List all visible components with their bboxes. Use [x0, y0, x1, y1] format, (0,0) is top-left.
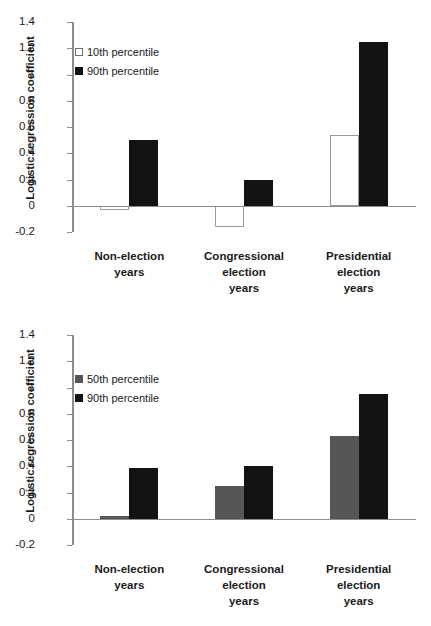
- y-axis-tick: [67, 101, 72, 102]
- y-axis-tick: [67, 388, 72, 389]
- y-axis-tick-label: 0.2: [0, 487, 35, 499]
- legend-label: 50th percentile: [87, 373, 159, 385]
- category-label: Non-election years: [72, 561, 187, 609]
- zero-baseline: [72, 206, 416, 207]
- legend-top: 10th percentile 90th percentile: [75, 42, 159, 80]
- legend-item: 10th percentile: [75, 42, 159, 61]
- y-axis-tick-label: 0.8: [0, 408, 35, 420]
- y-axis-tick-label: 1: [0, 69, 35, 81]
- y-axis-tick-label: 1.2: [0, 356, 35, 368]
- chart-panel-top: Logistic regression coefficient 1.41.210…: [0, 0, 431, 313]
- y-axis-tick: [67, 75, 72, 76]
- legend-swatch-icon: [75, 67, 83, 75]
- zero-baseline: [72, 519, 416, 520]
- bar: [330, 135, 359, 206]
- y-axis-tick: [67, 180, 72, 181]
- legend-swatch-icon: [75, 375, 83, 383]
- legend-bottom: 50th percentile 90th percentile: [75, 369, 159, 407]
- y-axis-tick: [67, 493, 72, 494]
- y-axis-tick: [67, 440, 72, 441]
- y-axis-tick-label: 0.6: [0, 434, 35, 446]
- y-axis-tick: [67, 127, 72, 128]
- y-axis-line: [72, 335, 74, 545]
- y-axis-tick-label: 1.2: [0, 43, 35, 55]
- y-axis-tick: [67, 232, 72, 233]
- y-axis-tick-label: 0.6: [0, 121, 35, 133]
- y-axis-line: [72, 22, 74, 232]
- legend-item: 90th percentile: [75, 61, 159, 80]
- y-axis-tick-label: -0.2: [0, 539, 35, 551]
- bar: [215, 206, 244, 228]
- y-axis-tick: [67, 335, 72, 336]
- bar: [129, 468, 158, 519]
- legend-swatch-icon: [75, 394, 83, 402]
- y-axis-tick-label: 0: [0, 513, 35, 525]
- category-label: Presidential election years: [301, 561, 416, 609]
- legend-label: 90th percentile: [87, 392, 159, 404]
- bar: [244, 466, 273, 519]
- bar: [215, 486, 244, 519]
- plot-area-bottom: 1.41.210.80.60.40.20-0.2: [72, 335, 416, 545]
- y-axis-tick: [67, 48, 72, 49]
- bar: [359, 394, 388, 519]
- y-axis-tick-label: 1.4: [0, 16, 35, 28]
- category-label: Congressional election years: [187, 561, 302, 609]
- y-axis-tick: [67, 545, 72, 546]
- chart-panel-bottom: Logistic regression coefficient 1.41.210…: [0, 313, 431, 626]
- bar: [244, 180, 273, 206]
- bar: [129, 140, 158, 206]
- legend-item: 50th percentile: [75, 369, 159, 388]
- y-axis-tick: [67, 361, 72, 362]
- category-label: Non-election years: [72, 248, 187, 296]
- y-axis-tick: [67, 466, 72, 467]
- y-axis-tick: [67, 153, 72, 154]
- bar: [359, 42, 388, 206]
- category-label: Presidential election years: [301, 248, 416, 296]
- category-label: Congressional election years: [187, 248, 302, 296]
- x-axis-category-labels-top: Non-election years Congressional electio…: [72, 248, 416, 296]
- y-axis-tick-label: 0.4: [0, 148, 35, 160]
- bar: [330, 436, 359, 519]
- legend-label: 90th percentile: [87, 65, 159, 77]
- y-axis-tick-label: 0: [0, 200, 35, 212]
- y-axis-tick: [67, 22, 72, 23]
- y-axis-tick-label: 0.4: [0, 461, 35, 473]
- x-axis-category-labels-bottom: Non-election years Congressional electio…: [72, 561, 416, 609]
- y-axis-tick-label: 0.8: [0, 95, 35, 107]
- y-axis-tick-label: 1.4: [0, 329, 35, 341]
- y-axis-tick: [67, 414, 72, 415]
- legend-label: 10th percentile: [87, 46, 159, 58]
- legend-swatch-icon: [75, 48, 83, 56]
- y-axis-tick-label: 1: [0, 382, 35, 394]
- legend-item: 90th percentile: [75, 388, 159, 407]
- y-axis-tick-label: -0.2: [0, 226, 35, 238]
- y-axis-tick-label: 0.2: [0, 174, 35, 186]
